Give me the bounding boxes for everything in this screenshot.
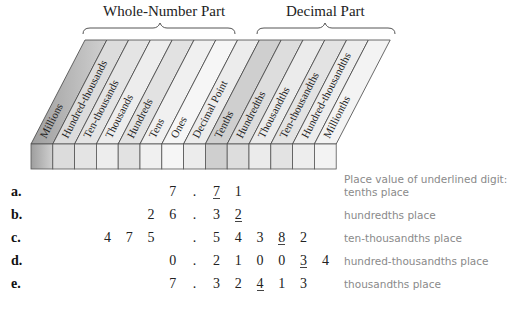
column-box <box>205 144 227 169</box>
digit: 1 <box>271 276 293 292</box>
digit: 4 <box>314 253 336 269</box>
digit: 3 <box>205 276 227 292</box>
digit: 7 <box>162 184 184 200</box>
digit: 3 <box>205 207 227 223</box>
underlined-digit: 7 <box>205 184 227 200</box>
column-box <box>184 144 206 169</box>
digit: 7 <box>118 230 140 246</box>
digit: 1 <box>227 253 249 269</box>
digit: 2 <box>205 253 227 269</box>
example-label: e. <box>11 276 21 292</box>
column-box <box>31 144 53 169</box>
digit: 6 <box>162 207 184 223</box>
example-label: b. <box>11 207 22 223</box>
whole-number-brace <box>83 23 235 34</box>
column-box <box>118 144 140 169</box>
digit: 7 <box>162 276 184 292</box>
underlined-digit: 3 <box>293 253 315 269</box>
place-value-caption: tenths place <box>344 186 409 198</box>
decimal-part-brace <box>257 23 395 34</box>
column-box <box>96 144 118 169</box>
column-box <box>249 144 271 169</box>
example-label: a. <box>11 184 22 200</box>
example-label: c. <box>11 230 21 246</box>
underlined-digit: 8 <box>271 230 293 246</box>
digit: 2 <box>227 276 249 292</box>
place-value-caption: thousandths place <box>344 278 441 290</box>
digit: 5 <box>140 230 162 246</box>
column-box <box>271 144 293 169</box>
digit: 3 <box>249 230 271 246</box>
column-box <box>53 144 75 169</box>
place-value-caption: hundred-thousandths place <box>344 255 489 267</box>
underlined-digit: 2 <box>227 207 249 223</box>
column-box <box>75 144 97 169</box>
decimal-point: . <box>184 184 206 200</box>
digit: 4 <box>96 230 118 246</box>
decimal-point: . <box>184 253 206 269</box>
digit: 2 <box>140 207 162 223</box>
digit: 2 <box>293 230 315 246</box>
place-value-caption: ten-thousandths place <box>344 232 462 244</box>
column-box <box>227 144 249 169</box>
digit: 5 <box>205 230 227 246</box>
digit: 1 <box>227 184 249 200</box>
decimal-point: . <box>184 230 206 246</box>
column-slants: MillionsHundred-thousandsTen-thousandsTh… <box>31 40 390 144</box>
decimal-point: . <box>184 276 206 292</box>
column-box <box>162 144 184 169</box>
decimal-point: . <box>184 207 206 223</box>
place-value-caption: hundredths place <box>344 209 436 221</box>
digit: 3 <box>293 276 315 292</box>
digit: 4 <box>227 230 249 246</box>
caption-header: Place value of underlined digit: <box>344 173 507 185</box>
column-box <box>314 144 336 169</box>
column-boxes <box>31 144 336 169</box>
digit: 0 <box>162 253 184 269</box>
column-box <box>140 144 162 169</box>
digit: 0 <box>271 253 293 269</box>
example-label: d. <box>11 253 22 269</box>
digit: 0 <box>249 253 271 269</box>
column-box <box>293 144 315 169</box>
underlined-digit: 4 <box>249 276 271 292</box>
